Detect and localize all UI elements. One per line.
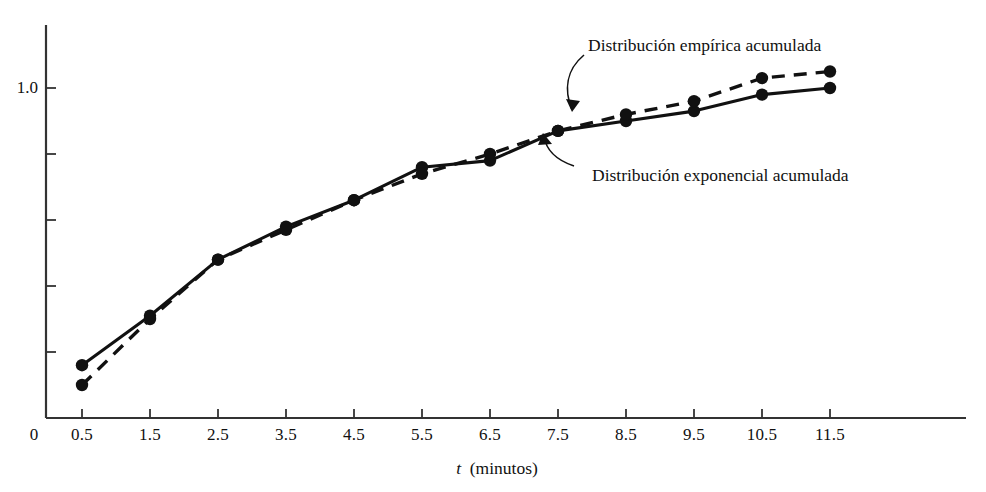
x-axis-tick-label: 0.5	[71, 425, 93, 445]
data-point-marker	[76, 379, 88, 391]
data-point-marker	[144, 313, 156, 325]
series-empirical-line	[82, 88, 830, 365]
x-axis-tick-label: 7.5	[547, 425, 569, 445]
annotation-empirical-label: Distribución empírica acumulada	[588, 35, 821, 56]
data-point-marker	[756, 72, 768, 84]
x-axis-tick-label: 1.5	[139, 425, 161, 445]
y-axis-origin-label: 0	[30, 425, 39, 445]
data-point-marker	[280, 224, 292, 236]
x-axis-tick-label: 8.5	[615, 425, 637, 445]
annotation-exponential-label: Distribución exponencial acumulada	[592, 165, 849, 186]
series-empirical-markers	[76, 82, 836, 372]
data-point-marker	[348, 194, 360, 206]
empirical-annotation-arrowhead	[566, 99, 580, 112]
x-axis-tick-label: 4.5	[343, 425, 365, 445]
chart-plot-area	[0, 0, 986, 492]
series-exponential-line	[82, 72, 830, 386]
data-point-marker	[620, 108, 632, 120]
data-point-marker	[824, 65, 836, 77]
x-axis-title-unit: (minutos)	[465, 458, 537, 478]
data-point-marker	[212, 253, 224, 265]
y-axis-tick-label-one: 1.0	[17, 78, 38, 98]
chart-figure: 1.00 0.51.52.53.54.55.56.57.58.59.510.51…	[0, 0, 986, 492]
series-exponential-markers	[76, 65, 836, 391]
data-point-marker	[688, 95, 700, 107]
data-point-marker	[76, 359, 88, 371]
x-axis-ticks	[82, 409, 830, 418]
x-axis-tick-label: 11.5	[815, 425, 845, 445]
x-axis-tick-label: 10.5	[747, 425, 778, 445]
x-axis-tick-label: 3.5	[275, 425, 297, 445]
data-point-marker	[756, 88, 768, 100]
data-point-marker	[484, 148, 496, 160]
x-axis-tick-label: 6.5	[479, 425, 501, 445]
annotation-arrows	[538, 55, 584, 166]
x-axis-tick-label: 5.5	[411, 425, 433, 445]
y-axis-ticks	[46, 88, 56, 352]
data-point-marker	[416, 168, 428, 180]
data-point-marker	[824, 82, 836, 94]
data-point-marker	[552, 125, 564, 137]
x-axis-tick-label: 9.5	[683, 425, 705, 445]
x-axis-tick-label: 2.5	[207, 425, 229, 445]
x-axis-title: t (minutos)	[456, 458, 538, 479]
x-axis-title-variable: t	[456, 458, 461, 478]
